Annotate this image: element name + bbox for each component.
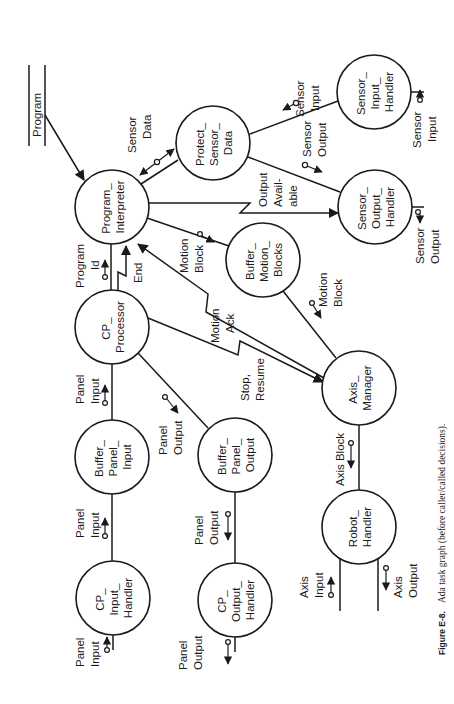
couple-program-id — [103, 260, 108, 279]
node-label-line: Handler — [122, 578, 134, 618]
node-label-line: Motion_ — [258, 241, 270, 283]
node-label-line: Interpreter — [114, 180, 126, 233]
node-label-line: Protect_ — [194, 123, 206, 166]
flow-label-sensor-data: Sensor Data — [126, 113, 153, 153]
svg-text:Buffer_ Panel_ Out: Buffer_ Panel_ Output — [216, 435, 256, 475]
couple-panel-input-ext — [105, 637, 110, 652]
flow-label-panel-input-cp: Panel Input — [74, 371, 101, 404]
node-label-line: Panel_ — [230, 438, 242, 474]
couple-sensor-data — [140, 149, 174, 175]
node-robot-handler: Robot_ Handler — [322, 490, 396, 564]
flow-label-sensor-input-top: Sensor Input — [294, 77, 321, 117]
node-label-line: Blocks — [272, 243, 284, 277]
node-cp-input-handler: CP_ Input_ Handler — [76, 561, 150, 635]
svg-text:Sensor_ Output_ Ha: Sensor_ Output_ Handler — [356, 184, 396, 230]
couple-panel-output-bpo — [226, 512, 231, 540]
flow-label-motion-block-am: Motion Block — [317, 269, 344, 307]
node-sensor-output-handler: Sensor_ Output_ Handler — [338, 170, 412, 244]
node-label-line: Input_ — [369, 77, 381, 110]
couple-motion-block-pi — [198, 232, 214, 242]
flow-label-motion-ack: Motion Ack — [209, 305, 236, 343]
flow-label-motion-block-pi: Motion Block — [178, 235, 205, 273]
node-sensor-input-handler: Sensor_ Input_ Handler — [337, 55, 411, 129]
node-buffer-motion-blocks: Buffer_ Motion_ Blocks — [226, 223, 300, 297]
node-label-line: Output_ — [230, 581, 242, 623]
node-label-line: Buffer_ — [244, 243, 256, 280]
flow-label-panel-output-ext: Panel Output — [177, 635, 204, 670]
couple-axis-block — [349, 441, 354, 468]
svg-text:Sensor_ Input_ Han: Sensor_ Input_ Handler — [355, 69, 395, 115]
couple-axis-input — [329, 577, 334, 597]
couple-panel-input-cp — [103, 385, 108, 405]
program-data-store: Program — [29, 65, 45, 146]
node-label-line: Axis_ — [347, 375, 359, 404]
node-cp-output-handler: CP_ Output_ Handler — [198, 563, 272, 637]
node-label-line: Output_ — [370, 188, 382, 230]
couple-panel-output-ext — [226, 640, 231, 664]
node-label-line: CP_ — [216, 590, 228, 613]
flow-label-panel-input-bpi: Panel Input — [74, 505, 101, 538]
node-label-line: Manager — [361, 365, 373, 411]
node-label-line: CP_ — [100, 317, 112, 340]
flow-label-axis-block: Axis Block — [334, 433, 346, 486]
caption-label: Figure E-8. — [437, 611, 447, 655]
node-label-line: Handler — [384, 187, 396, 227]
node-label-line: Program_ — [100, 183, 112, 234]
edge-cp-bpo — [138, 353, 208, 428]
node-buffer-panel-output: Buffer_ Panel_ Output — [198, 418, 272, 492]
node-label-line: Output — [244, 437, 256, 472]
node-cp-processor: CP_ Processor — [75, 290, 149, 364]
node-label-line: Robot_ — [347, 509, 359, 547]
node-program-interpreter: Program_ Interpreter — [75, 170, 149, 244]
caption-text: Ada task graph (before caller/called dec… — [437, 424, 448, 603]
node-label-line: Processor — [114, 301, 126, 353]
node-label-line: Input_ — [108, 583, 120, 616]
couple-panel-input-bpi — [103, 518, 108, 538]
flow-label-sensor-output-ext: Sensor Output — [414, 224, 441, 264]
node-buffer-panel-input: Buffer_ Panel_ Input — [75, 420, 149, 494]
node-label-line: Handler — [383, 72, 395, 112]
node-label-line: Buffer_ — [216, 438, 228, 475]
flow-label-program-id: Program Id — [74, 241, 101, 288]
node-label-line: Handler — [361, 507, 373, 547]
couple-panel-output-cp — [163, 395, 178, 413]
edge-pi-soh-output-available — [149, 203, 338, 213]
node-label-line: Sensor_ — [355, 72, 367, 115]
node-label-line: Data — [222, 130, 234, 155]
flow-label-sensor-output-mid: Sensor Output — [301, 117, 328, 157]
flow-label-sensor-input-ext: Sensor Input — [411, 108, 438, 148]
node-label-line: Sensor_ — [356, 187, 368, 230]
figure-caption: Figure E-8. Ada task graph (before calle… — [431, 424, 448, 655]
couple-axis-output — [384, 566, 389, 590]
node-label-line: Handler — [244, 580, 256, 620]
flow-label-end: End — [132, 263, 144, 283]
data-store-label: Program — [31, 93, 43, 137]
program-to-interpreter-edge — [45, 115, 84, 180]
node-label-line: Input — [121, 443, 133, 469]
node-axis-manager: Axis_ Manager — [322, 351, 396, 425]
flow-label-panel-output-bpo: Panel Output — [193, 510, 220, 545]
node-label-line: Sensor_ — [208, 123, 220, 166]
node-label-line: Panel_ — [107, 440, 119, 476]
flow-label-panel-output-cp: Panel Output — [157, 420, 184, 455]
edge-cp-pi-end — [118, 246, 126, 290]
node-label-line: CP_ — [94, 588, 106, 611]
svg-text:Buffer_ Motion_ Bl: Buffer_ Motion_ Blocks — [244, 238, 284, 282]
flow-label-stop-resume: Stop, Resume — [239, 358, 266, 401]
ada-task-graph: Program — [0, 0, 454, 704]
node-label-line: Buffer_ — [93, 440, 105, 477]
flow-label-panel-input-ext: Panel Input — [74, 634, 101, 667]
couple-sensor-output-ext — [416, 210, 421, 223]
node-protect-sensor-data: Protect_ Sensor_ Data — [176, 106, 250, 180]
couple-sensor-output-mid — [302, 162, 322, 172]
flow-label-axis-output: Axis Output — [392, 563, 419, 598]
flow-label-output-available: Output Avail- able — [257, 169, 299, 207]
flow-label-axis-input: Axis Input — [298, 572, 325, 598]
